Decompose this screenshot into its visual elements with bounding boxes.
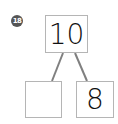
right-part-box: 8: [76, 81, 114, 118]
left-part-box[interactable]: [25, 81, 62, 118]
whole-box: 10: [45, 15, 88, 53]
right-connector: [75, 53, 87, 81]
left-connector: [52, 53, 63, 81]
